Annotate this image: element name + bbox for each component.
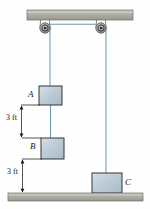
ground-group bbox=[8, 193, 143, 201]
block-b bbox=[41, 138, 64, 159]
left-pulley-axle bbox=[44, 27, 47, 30]
block-c-label: C bbox=[125, 178, 131, 187]
ceiling-beam bbox=[27, 10, 133, 20]
physics-figure-pulley-system: A B C 3 ft 3 ft bbox=[0, 0, 150, 209]
dimension-a-to-b-arrow-bottom bbox=[20, 134, 24, 138]
block-a-label: A bbox=[28, 90, 34, 99]
dimension-b-to-ground bbox=[21, 159, 42, 193]
right-pulley-axle bbox=[100, 27, 103, 30]
dimension-a-to-b bbox=[20, 105, 41, 138]
right-pulley bbox=[96, 23, 106, 33]
dimension-b-to-ground-arrow-top bbox=[21, 160, 25, 164]
ceiling-beam-group bbox=[27, 10, 133, 20]
dimension-b-to-ground-arrow-bottom bbox=[21, 189, 25, 193]
block-b-label: B bbox=[30, 142, 36, 151]
dimension-b-to-ground-label: 3 ft bbox=[7, 168, 18, 176]
left-pulley bbox=[40, 23, 50, 33]
block-c bbox=[92, 173, 122, 193]
dimension-a-to-b-label: 3 ft bbox=[6, 114, 17, 122]
dimension-a-to-b-arrow-top bbox=[20, 106, 24, 110]
ground-surface bbox=[8, 193, 143, 201]
block-a bbox=[39, 86, 62, 105]
